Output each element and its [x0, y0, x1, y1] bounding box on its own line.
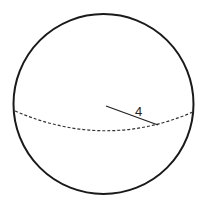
radius-label: 4	[135, 104, 142, 119]
sphere-outline	[14, 14, 194, 194]
radius-line	[106, 106, 158, 125]
equator-dashed-line	[15, 111, 193, 131]
sphere-diagram: 4	[0, 0, 204, 201]
